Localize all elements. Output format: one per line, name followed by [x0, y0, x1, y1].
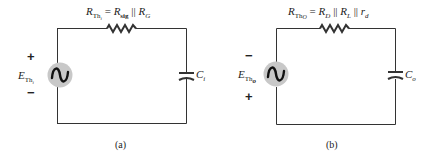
resistor-icon-b: [320, 25, 349, 32]
parallel-symbol-1: ||: [330, 5, 340, 17]
rth-i-sub: Th: [93, 12, 101, 20]
ac-source-icon-b: [264, 62, 289, 87]
eth-i-sub: Th: [25, 76, 33, 84]
rth-o-symbol: R: [288, 5, 295, 17]
rth-o-sub: Th: [295, 12, 303, 20]
polarity-bottom-a: −: [27, 86, 35, 99]
rd-small-sub: d: [365, 12, 369, 20]
polarity-top-b: −: [245, 49, 253, 62]
capacitor-icon-a: [179, 73, 194, 80]
ci-sub: i: [203, 75, 205, 83]
polarity-bottom-b: +: [245, 90, 253, 103]
resistor-label-b: RThO = RD || RL || rd: [288, 6, 369, 20]
circuit-a: [57, 25, 194, 124]
rsig-sub: sig: [120, 12, 128, 20]
capacitor-label-b: Co: [405, 69, 416, 83]
polarity-top-a: +: [27, 50, 35, 63]
eth-o-sub: Th: [245, 75, 253, 83]
source-label-a: EThi: [18, 70, 34, 85]
resistor-label-a: RThi = Rsig || RG: [86, 6, 150, 21]
circuit-diagrams: [0, 0, 433, 159]
resistor-icon-a: [107, 25, 136, 32]
parallel-symbol: ||: [129, 5, 139, 17]
rth-i-symbol: R: [86, 5, 93, 17]
parallel-symbol-2: ||: [351, 5, 361, 17]
equals-sign: =: [102, 5, 114, 17]
rl-symbol: R: [340, 5, 347, 17]
capacitor-label-a: Ci: [196, 69, 205, 83]
ac-source-icon-a: [48, 63, 73, 88]
eth-o-sub2: o: [253, 77, 257, 85]
circuit-b: [277, 25, 404, 125]
figure-caption-b: (b): [326, 140, 338, 150]
eth-i-symbol: E: [18, 69, 25, 81]
capacitor-icon-b: [388, 72, 403, 79]
eth-o-symbol: E: [238, 68, 245, 80]
equals-sign-b: =: [307, 5, 319, 17]
figure-caption-a: (a): [115, 140, 126, 150]
co-sub: o: [412, 75, 416, 83]
rg-sub: G: [145, 12, 150, 20]
source-label-b: ETho: [238, 69, 256, 85]
